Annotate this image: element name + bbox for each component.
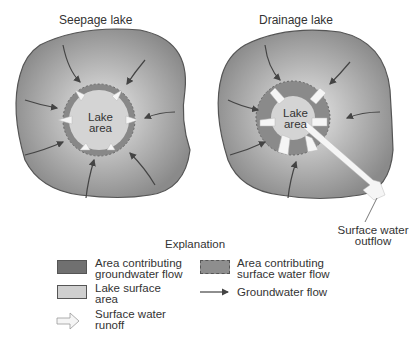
lake-surface-swatch	[57, 285, 87, 299]
legend-item-surface-area: Area contributing surface water flow	[237, 258, 330, 280]
legend-item-groundwater-area: Area contributing groundwater flow	[95, 258, 183, 280]
runoff-arrow-icon	[57, 313, 79, 329]
seepage-lake-title: Seepage lake	[59, 13, 132, 27]
left-lake-label: Lake area	[88, 112, 113, 134]
legend-item-lake-surface: Lake surface area	[95, 283, 161, 305]
surface-area-swatch	[200, 260, 230, 274]
legend-item-groundwater-flow: Groundwater flow	[237, 287, 327, 298]
groundwater-area-swatch	[57, 260, 87, 274]
drainage-lake-title: Drainage lake	[259, 13, 333, 27]
legend-item-runoff: Surface water runoff	[95, 309, 166, 331]
outflow-label: Surface water outflow	[333, 225, 413, 247]
legend-title: Explanation	[165, 238, 225, 250]
right-lake-label: Lake area	[283, 108, 308, 130]
